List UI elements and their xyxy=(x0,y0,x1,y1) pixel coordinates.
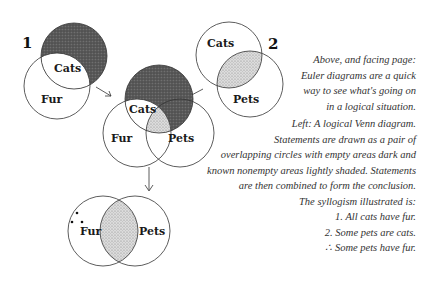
caption-line: Euler diagrams are a quick xyxy=(301,68,416,84)
syllogism-premise-1: 1. All cats have fur. xyxy=(207,209,416,225)
caption-line: The syllogism illustrated is: xyxy=(207,194,416,210)
premise-1-diagram: 1 Cats Fur xyxy=(22,23,107,119)
syllogism-conclusion: ∴ Some pets have fur. xyxy=(207,240,416,256)
premise-2-number: 2 xyxy=(268,35,278,53)
figure: 1 Cats Fur Cats Pets 2 Cats Fur Pets xyxy=(0,0,430,281)
conclusion-fur-label: Fur xyxy=(80,225,102,238)
premise-1-cats-label: Cats xyxy=(54,62,81,75)
caption-line: in a logical situation. xyxy=(301,99,416,115)
premise-1-number: 1 xyxy=(22,34,32,52)
combined-pets-label: Pets xyxy=(168,132,194,145)
conclusion-diagram: Fur Pets xyxy=(68,196,170,266)
caption-line: known nonempty areas lightly shaded. Sta… xyxy=(207,163,416,179)
arrow-premise-1 xyxy=(96,87,111,96)
syllogism-premise-2: 2. Some pets are cats. xyxy=(207,225,416,241)
premise-2-cats-label: Cats xyxy=(207,37,234,50)
combined-diagram: Cats Fur Pets xyxy=(103,65,214,167)
combined-cats-label: Cats xyxy=(129,103,156,116)
premise-2-diagram: Cats Pets 2 xyxy=(196,22,283,117)
caption-line: Statements are drawn as a pair of xyxy=(207,132,416,148)
caption-line: overlapping circles with empty areas dar… xyxy=(207,147,416,163)
combined-fur-label: Fur xyxy=(111,132,133,145)
premise-2-pets-label: Pets xyxy=(233,93,259,106)
conclusion-pets-label: Pets xyxy=(139,225,165,238)
caption-venn: Left: A logical Venn diagram. Statements… xyxy=(207,116,416,256)
caption-line: way to see what's going on xyxy=(301,83,416,99)
caption-line: Left: A logical Venn diagram. xyxy=(207,116,416,132)
caption-line: are then combined to form the conclusion… xyxy=(207,178,416,194)
premise-1-fur-label: Fur xyxy=(41,93,63,106)
caption-euler: Above, and facing page: Euler diagrams a… xyxy=(301,52,416,114)
arrow-to-conclusion xyxy=(145,167,153,191)
caption-line: Above, and facing page: xyxy=(301,52,416,68)
